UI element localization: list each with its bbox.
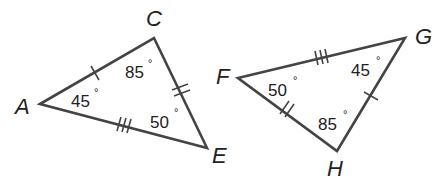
side-ae-tick-marks bbox=[117, 117, 131, 133]
side-ce-tick-marks bbox=[172, 84, 190, 96]
vertex-label-g: G bbox=[415, 24, 432, 49]
angle-h-degree: ° bbox=[343, 108, 347, 120]
vertex-label-e: E bbox=[212, 143, 227, 168]
vertex-label-h: H bbox=[327, 156, 343, 181]
angle-c-degree: ° bbox=[148, 57, 152, 69]
angle-c-value: 85 bbox=[125, 63, 144, 82]
angle-a-value: 45 bbox=[71, 92, 90, 111]
triangle-fgh: G F H 50 ° 45 ° 85 ° bbox=[216, 24, 432, 181]
angle-g-value: 45 bbox=[351, 61, 370, 80]
angle-a-degree: ° bbox=[94, 86, 98, 98]
angle-g-degree: ° bbox=[376, 54, 380, 66]
angle-e-degree: ° bbox=[174, 106, 178, 118]
angle-f-degree: ° bbox=[293, 74, 297, 86]
vertex-label-a: A bbox=[13, 94, 30, 119]
vertex-label-f: F bbox=[216, 64, 231, 89]
vertex-label-c: C bbox=[146, 6, 162, 31]
triangle-ace: C A E 45 ° 85 ° 50 ° bbox=[13, 6, 227, 168]
congruent-triangles-diagram: C A E 45 ° 85 ° 50 ° G F H 50 bbox=[0, 0, 441, 183]
angle-f-value: 50 bbox=[268, 81, 287, 100]
side-fg-tick-marks bbox=[315, 49, 328, 65]
angle-h-value: 85 bbox=[318, 115, 337, 134]
angle-e-value: 50 bbox=[150, 113, 169, 132]
